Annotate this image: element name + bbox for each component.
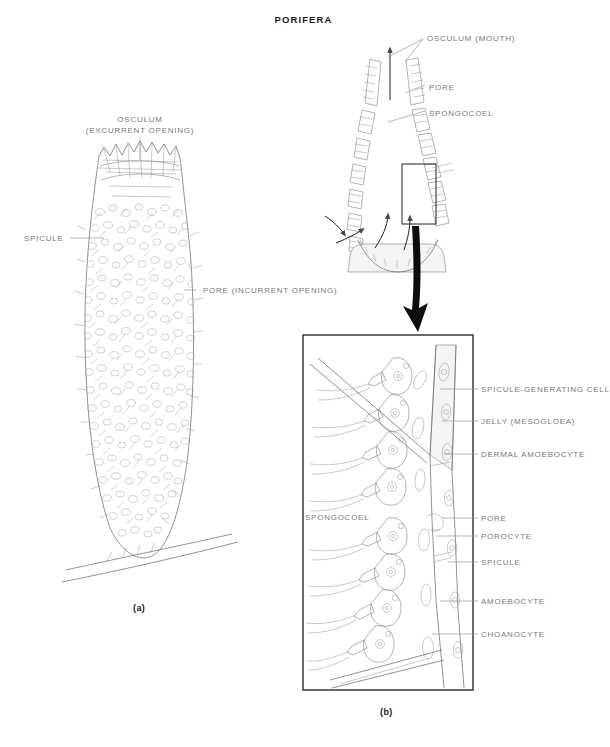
label-osculum-line1: OSCULUM (62, 114, 218, 125)
label-jelly-mesogloea: JELLY (MESOGLOEA) (481, 416, 575, 427)
label-pore-detail: PORE (481, 513, 507, 524)
label-osculum-mouth: OSCULUM (MOUTH) (427, 33, 515, 44)
caption-b: (b) (380, 707, 393, 717)
label-spicule-detail: SPICULE (481, 557, 520, 568)
label-osculum-line2: (EXCURRENT OPENING) (62, 125, 218, 136)
label-osculum-excurrent: OSCULUM (EXCURRENT OPENING) (62, 114, 218, 136)
label-amoebocyte: AMOEBOCYTE (481, 596, 545, 607)
label-dermal-amoebocyte: DERMAL AMOEBOCYTE (481, 449, 585, 460)
caption-a: (a) (133, 603, 145, 613)
label-spicule-a: SPICULE (24, 233, 63, 244)
label-spicule-generating-cell: SPICULE-GENERATING CELL (481, 384, 610, 395)
label-spongocoel-detail: SPONGOCOEL (305, 512, 369, 523)
label-porocyte: POROCYTE (481, 531, 532, 542)
label-pore-incurrent: PORE (INCURRENT OPENING) (203, 285, 337, 296)
label-spongocoel-cutaway: SPONGOCOEL (429, 108, 493, 119)
sponge-body-artwork (62, 141, 238, 582)
label-choanocyte: CHOANOCYTE (481, 629, 545, 640)
label-pore-cutaway: PORE (429, 82, 455, 93)
